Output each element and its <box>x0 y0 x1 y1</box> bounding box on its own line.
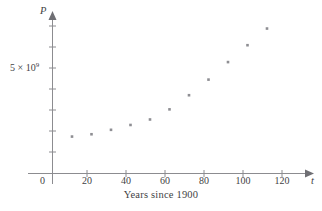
data-point <box>168 108 171 111</box>
y-tick-mantissa: 5 × 10 <box>10 62 36 73</box>
x-axis-tick-label-120: 120 <box>275 176 290 186</box>
data-point <box>129 124 132 127</box>
y-axis-label: P <box>40 6 46 17</box>
x-axis-tick-label-20: 20 <box>82 176 92 186</box>
data-points <box>71 27 269 138</box>
x-axis-tick-label-100: 100 <box>236 176 251 186</box>
data-point <box>188 94 191 97</box>
y-axis-arrow-icon <box>49 11 57 20</box>
data-point <box>246 44 249 47</box>
figure-caption: Years since 1900 <box>124 190 198 201</box>
data-point <box>266 27 269 30</box>
figure-container: P 5 × 109 0 20 40 60 80 100 120 t Years … <box>0 0 322 211</box>
y-axis-tick-label: 5 × 109 <box>10 63 39 73</box>
data-point <box>149 118 152 121</box>
data-point <box>227 61 230 64</box>
x-axis-label: t <box>311 176 314 187</box>
data-point <box>71 135 74 138</box>
y-tick-exponent: 9 <box>36 61 40 69</box>
x-axis-tick-label-60: 60 <box>160 176 170 186</box>
data-point <box>207 78 210 81</box>
data-point <box>90 133 93 136</box>
data-point <box>110 129 113 132</box>
x-axis-tick-label-80: 80 <box>199 176 209 186</box>
x-axis-tick-label-40: 40 <box>121 176 131 186</box>
origin-label: 0 <box>40 176 45 186</box>
